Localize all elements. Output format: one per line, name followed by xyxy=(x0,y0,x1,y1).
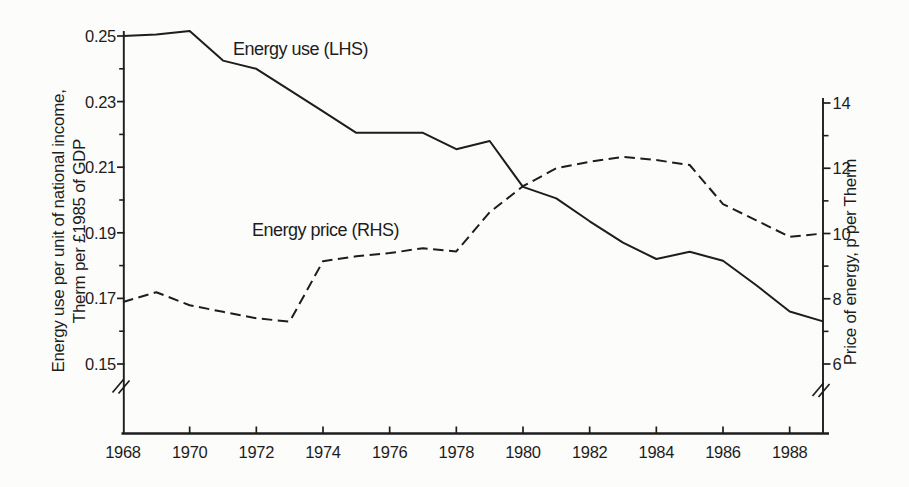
x-tick-label-1988: 1988 xyxy=(772,443,808,461)
right-y-tick-label-14: 14 xyxy=(833,94,851,112)
energy-chart: 1968197019721974197619781980198219841986… xyxy=(0,0,909,487)
x-tick-label-1980: 1980 xyxy=(505,443,541,461)
x-tick-label-1986: 1986 xyxy=(705,443,741,461)
series-label-energy-use: Energy use (LHS) xyxy=(233,39,368,59)
x-tick-label-1982: 1982 xyxy=(572,443,608,461)
left-y-tick-label-0.23: 0.23 xyxy=(85,93,116,111)
chart-series xyxy=(123,31,823,322)
left-axis-title-line-1: Energy use per unit of national income, xyxy=(49,89,68,372)
x-tick-label-1984: 1984 xyxy=(639,443,675,461)
energy-use-line xyxy=(123,31,823,321)
x-tick-label-1974: 1974 xyxy=(305,443,341,461)
left-y-tick-label-0.19: 0.19 xyxy=(85,224,116,242)
series-label-energy-price: Energy price (RHS) xyxy=(252,220,399,240)
x-tick-label-1978: 1978 xyxy=(439,443,475,461)
energy-price-line xyxy=(123,157,823,322)
right-axis-title: Price of energy, p per Therm xyxy=(841,159,860,366)
left-axis-title-line-2: Therm per £1985 of GDP xyxy=(70,139,89,323)
x-tick-label-1976: 1976 xyxy=(372,443,408,461)
left-y-tick-label-0.25: 0.25 xyxy=(85,27,116,45)
chart-axes: 1968197019721974197619781980198219841986… xyxy=(85,27,850,461)
x-tick-label-1972: 1972 xyxy=(239,443,275,461)
left-y-tick-label-0.15: 0.15 xyxy=(85,355,116,373)
chart-page: 1968197019721974197619781980198219841986… xyxy=(0,0,909,487)
left-y-tick-label-0.17: 0.17 xyxy=(85,289,116,307)
x-tick-label-1968: 1968 xyxy=(105,443,141,461)
x-tick-label-1970: 1970 xyxy=(172,443,208,461)
left-y-tick-label-0.21: 0.21 xyxy=(85,158,116,176)
